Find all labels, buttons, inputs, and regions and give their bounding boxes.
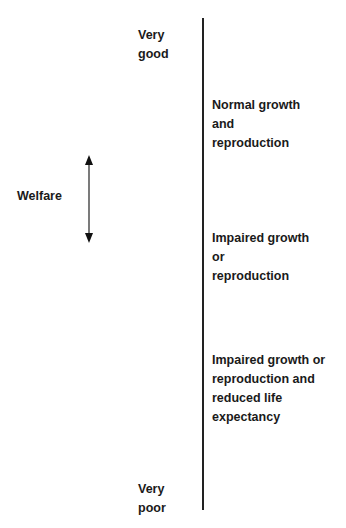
level-impaired-growth: Impaired growth or reproduction [212, 229, 309, 286]
level-impaired-reduced-life: Impaired growth or reproduction and redu… [212, 351, 325, 427]
scale-bottom-label: Very poor [138, 480, 166, 518]
double-arrow-icon [82, 155, 96, 243]
welfare-scale-line [202, 18, 204, 510]
welfare-axis-label: Welfare [17, 187, 62, 206]
level-normal-growth: Normal growth and reproduction [212, 96, 300, 153]
scale-top-label: Very good [138, 26, 169, 64]
